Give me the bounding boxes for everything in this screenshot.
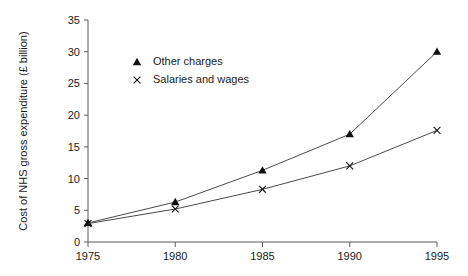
series-1 <box>84 48 441 227</box>
x-tick-label: 1980 <box>163 250 187 262</box>
chart-container: Cost of NHS gross expenditure (£ billion… <box>0 0 468 276</box>
y-axis-title-group: Cost of NHS gross expenditure (£ billion… <box>17 31 29 230</box>
legend-marker <box>133 58 141 65</box>
y-tick-label: 15 <box>68 141 80 153</box>
legend-marker <box>134 77 141 84</box>
data-point-marker <box>433 48 441 55</box>
x-tick-label: 1985 <box>250 250 274 262</box>
legend-label: Other charges <box>153 55 223 67</box>
x-tick-label: 1990 <box>338 250 362 262</box>
y-axis-title: Cost of NHS gross expenditure (£ billion… <box>17 31 29 230</box>
y-tick-label: 10 <box>68 173 80 185</box>
data-point-marker <box>171 198 179 205</box>
x-axis-ticks: 19751980198519901995 <box>76 242 449 262</box>
y-tick-label: 35 <box>68 14 80 26</box>
line-chart: Cost of NHS gross expenditure (£ billion… <box>0 0 468 276</box>
y-tick-label: 0 <box>74 236 80 248</box>
y-tick-label: 20 <box>68 109 80 121</box>
series-2 <box>85 127 441 227</box>
data-point-marker <box>259 186 266 193</box>
y-tick-label: 25 <box>68 77 80 89</box>
chart-legend: Other chargesSalaries and wages <box>133 55 250 85</box>
y-tick-label: 5 <box>74 204 80 216</box>
x-tick-label: 1995 <box>425 250 449 262</box>
data-point-marker <box>346 162 353 169</box>
legend-label: Salaries and wages <box>153 73 250 85</box>
y-axis-ticks: 05101520253035 <box>68 14 88 248</box>
x-tick-label: 1975 <box>76 250 100 262</box>
series-layer <box>84 48 441 227</box>
y-tick-label: 30 <box>68 46 80 58</box>
series-line <box>88 130 437 223</box>
data-point-marker <box>258 166 266 173</box>
data-point-marker <box>434 127 441 134</box>
